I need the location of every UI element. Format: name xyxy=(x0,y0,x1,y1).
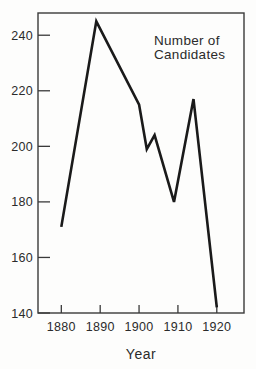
chart-annotation-line-1: Number of xyxy=(154,34,225,48)
x-axis-tick-label: 1900 xyxy=(125,320,154,334)
x-axis-tick-label: 1920 xyxy=(202,320,231,334)
y-axis-tick-label: 220 xyxy=(11,84,33,98)
data-line-number-of-candidates xyxy=(61,21,217,307)
y-axis-tick-label: 240 xyxy=(11,29,33,43)
chart-annotation-line-2: Candidates xyxy=(154,48,225,62)
x-axis-tick-label: 1880 xyxy=(47,320,76,334)
x-axis-title: Year xyxy=(38,346,244,362)
y-axis-tick-label: 180 xyxy=(11,195,33,209)
x-axis-tick-label: 1910 xyxy=(163,320,192,334)
x-axis-tick-label: 1890 xyxy=(86,320,115,334)
y-axis-tick-label: 160 xyxy=(11,251,33,265)
y-axis-tick-label: 200 xyxy=(11,140,33,154)
candidates-line-chart-figure: 14016018020022024018801890190019101920 N… xyxy=(0,0,256,369)
chart-annotation: Number of Candidates xyxy=(154,34,225,62)
y-axis-tick-label: 140 xyxy=(11,307,33,321)
